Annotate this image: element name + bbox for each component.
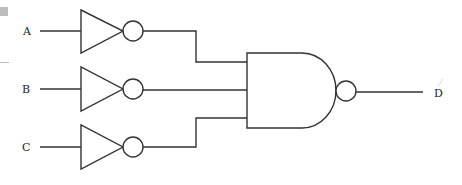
- input-label-b: B: [22, 83, 30, 96]
- not-gate-a-triangle: [81, 10, 123, 53]
- logic-circuit-diagram: A B C D: [0, 0, 462, 185]
- input-label-c: C: [22, 141, 30, 154]
- nand-gate-bubble: [336, 81, 356, 101]
- nand-gate: [247, 53, 356, 128]
- not-gate-b-bubble: [123, 79, 143, 99]
- output-d: D: [356, 79, 443, 100]
- input-c: C: [22, 141, 81, 154]
- input-label-a: A: [22, 25, 32, 38]
- not-gate-c: [81, 125, 143, 169]
- not-gate-a: [81, 10, 143, 53]
- nand-gate-body: [247, 53, 336, 128]
- wire-a-to-nand: [143, 31, 247, 62]
- output-label-d: D: [434, 87, 443, 100]
- not-gate-c-bubble: [123, 137, 143, 157]
- not-gate-a-bubble: [123, 21, 143, 41]
- scan-artifact-stroke: [438, 79, 443, 86]
- not-gate-b: [81, 67, 143, 111]
- not-gate-c-triangle: [81, 125, 123, 169]
- wire-c-to-nand: [143, 118, 247, 147]
- input-a: A: [22, 25, 81, 38]
- not-gate-b-triangle: [81, 67, 123, 111]
- input-b: B: [22, 83, 81, 96]
